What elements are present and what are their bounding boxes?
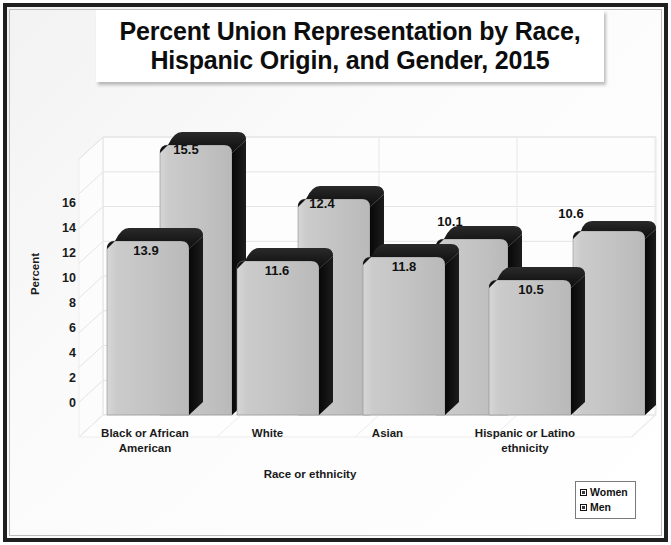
data-label-women-white: 11.6	[265, 263, 290, 278]
chart-title-line-2: Hispanic Origin, and Gender, 2015	[150, 46, 549, 75]
legend-item-women[interactable]: Women	[580, 485, 631, 500]
legend-swatch-icon	[580, 489, 587, 496]
data-label-men-hispanic: 10.6	[558, 206, 583, 221]
legend-label-women: Women	[590, 485, 628, 500]
chart-image: 16 14 12 10 8 6 4 2 0 Percent	[0, 0, 671, 545]
data-label-men-black: 15.5	[173, 142, 198, 157]
data-label-women-black: 13.9	[133, 243, 158, 258]
legend-item-men[interactable]: Men	[580, 500, 631, 515]
data-label-men-asian: 10.1	[437, 214, 462, 229]
legend-swatch-icon	[580, 504, 587, 511]
data-label-women-hispanic: 10.5	[518, 282, 543, 297]
chart-title-line-1: Percent Union Representation by Race,	[120, 17, 581, 46]
bar-men-hispanic	[573, 221, 656, 415]
data-label-men-white: 12.4	[309, 196, 334, 211]
chart-title: Percent Union Representation by Race, Hi…	[96, 10, 604, 82]
data-label-women-asian: 11.8	[392, 259, 417, 274]
legend-label-men: Men	[590, 500, 611, 515]
legend[interactable]: Women Men	[575, 481, 636, 519]
